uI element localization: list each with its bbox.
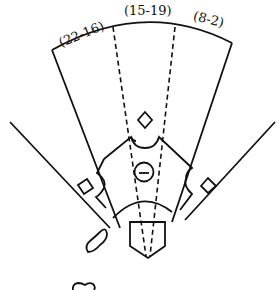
on-deck-blob-1 xyxy=(86,229,107,252)
right-field-line xyxy=(172,43,232,222)
on-deck-blob-2 xyxy=(73,283,95,290)
home-plate xyxy=(130,222,165,258)
baseball-field-diagram: (22-16) (15-19) (8-2) xyxy=(0,0,280,290)
pitcher-mound-icon xyxy=(135,163,154,182)
third-base-icon xyxy=(78,179,93,194)
zone-label-right: (8-2) xyxy=(192,8,226,30)
first-base-icon xyxy=(201,178,216,193)
zone-label-left: (22-16) xyxy=(56,18,106,50)
zone-label-center: (15-19) xyxy=(124,3,172,18)
right-foul-line xyxy=(185,122,275,220)
home-arc xyxy=(113,201,172,218)
left-foul-line xyxy=(10,122,110,228)
second-base-diamond-icon xyxy=(138,112,152,128)
